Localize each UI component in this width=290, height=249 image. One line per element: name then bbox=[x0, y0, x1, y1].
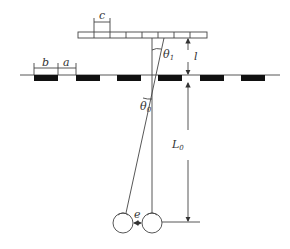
eye-separation-dimension: e bbox=[134, 208, 141, 223]
label-a: a bbox=[63, 56, 70, 69]
occluding-bars bbox=[34, 75, 265, 81]
label-theta1: θ1 bbox=[163, 48, 174, 62]
label-b: b bbox=[42, 56, 49, 69]
label-l: l bbox=[194, 50, 198, 63]
diagram-canvas: c b a θ1 θ0 l L0 bbox=[0, 0, 290, 249]
label-e: e bbox=[134, 208, 141, 221]
bar-gap-dimension: b a bbox=[34, 56, 76, 75]
ruler bbox=[78, 32, 207, 38]
right-eye bbox=[142, 213, 162, 233]
angle-theta1-arc bbox=[152, 49, 161, 50]
left-eye bbox=[113, 213, 133, 233]
label-c: c bbox=[99, 9, 105, 22]
eye-distance-dimension: L0 bbox=[162, 83, 200, 222]
ruler-period-dimension: c bbox=[94, 9, 110, 32]
ruler-distance-dimension: l bbox=[188, 39, 198, 74]
slanted-sight-line bbox=[126, 38, 164, 213]
label-L0: L0 bbox=[171, 138, 184, 152]
